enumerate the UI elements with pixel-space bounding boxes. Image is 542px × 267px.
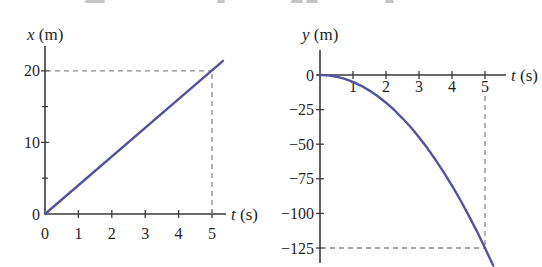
position-y-vs-time-x-axis-title: t (s) [511,66,538,85]
position-x-vs-time-y-tick-label: 20 [24,62,40,79]
position-y-vs-time-y-axis-title: y (m) [300,25,338,44]
position-y-vs-time-y-tick-label: 0 [306,67,314,84]
position-x-vs-time-x-tick-label: 3 [141,225,149,242]
position-y-vs-time-x-tick-label: 2 [382,78,390,95]
position-x-vs-time-curve [45,61,223,214]
position-x-vs-time-y-axis-title: x (m) [26,25,63,44]
kinematics-two-graph-figure: 01234501020x (m)t (s)123450−25−50−75−100… [0,0,542,267]
position-y-vs-time-y-tick-label: −100 [281,205,314,222]
position-x-vs-time-x-tick-label: 4 [175,225,183,242]
position-y-vs-time-curve [320,75,493,266]
position-x-vs-time-x-tick-label: 2 [108,225,116,242]
position-x-vs-time-x-tick-label: 0 [41,225,49,242]
position-y-vs-time-y-tick-label: −75 [289,170,314,187]
position-x-vs-time-x-axis-title: t (s) [231,205,258,224]
position-y-vs-time-y-tick-label: −125 [281,240,314,257]
position-x-vs-time-y-tick-label: 10 [24,134,40,151]
position-y-vs-time-x-tick-label: 4 [448,78,456,95]
graphs-canvas: 01234501020x (m)t (s)123450−25−50−75−100… [0,0,542,267]
position-x-vs-time-y-tick-label: 0 [32,206,40,223]
position-x-vs-time-x-tick-label: 5 [208,225,216,242]
position-y-vs-time-y-tick-label: −50 [289,136,314,153]
position-x-vs-time-x-tick-label: 1 [74,225,82,242]
position-y-vs-time-y-tick-label: −25 [289,101,314,118]
position-y-vs-time-x-tick-label: 3 [415,78,423,95]
position-y-vs-time-x-tick-label: 5 [481,78,489,95]
